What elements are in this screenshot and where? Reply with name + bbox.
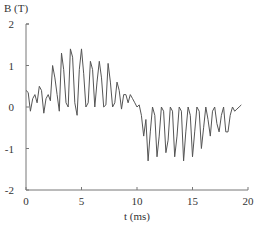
x-tick-label: 20 xyxy=(243,195,255,207)
x-axis-title: t (ms) xyxy=(124,210,150,223)
y-tick-label: 0 xyxy=(9,101,15,113)
y-tick-label: 2 xyxy=(9,18,15,30)
y-tick-label: -2 xyxy=(5,184,14,196)
x-tick-label: 5 xyxy=(79,195,85,207)
x-tick-label: 0 xyxy=(23,195,29,207)
y-tick-label: -1 xyxy=(5,143,14,155)
y-axis-title: B (T) xyxy=(4,2,28,15)
y-tick-label: 1 xyxy=(9,60,15,72)
y-tick-labels: 210-1-2 xyxy=(5,18,29,196)
line-chart: B (T) 210-1-2 05101520 t (ms) xyxy=(0,0,256,227)
x-tick-label: 10 xyxy=(132,195,144,207)
data-series-b xyxy=(26,49,241,161)
x-tick-label: 15 xyxy=(187,195,199,207)
